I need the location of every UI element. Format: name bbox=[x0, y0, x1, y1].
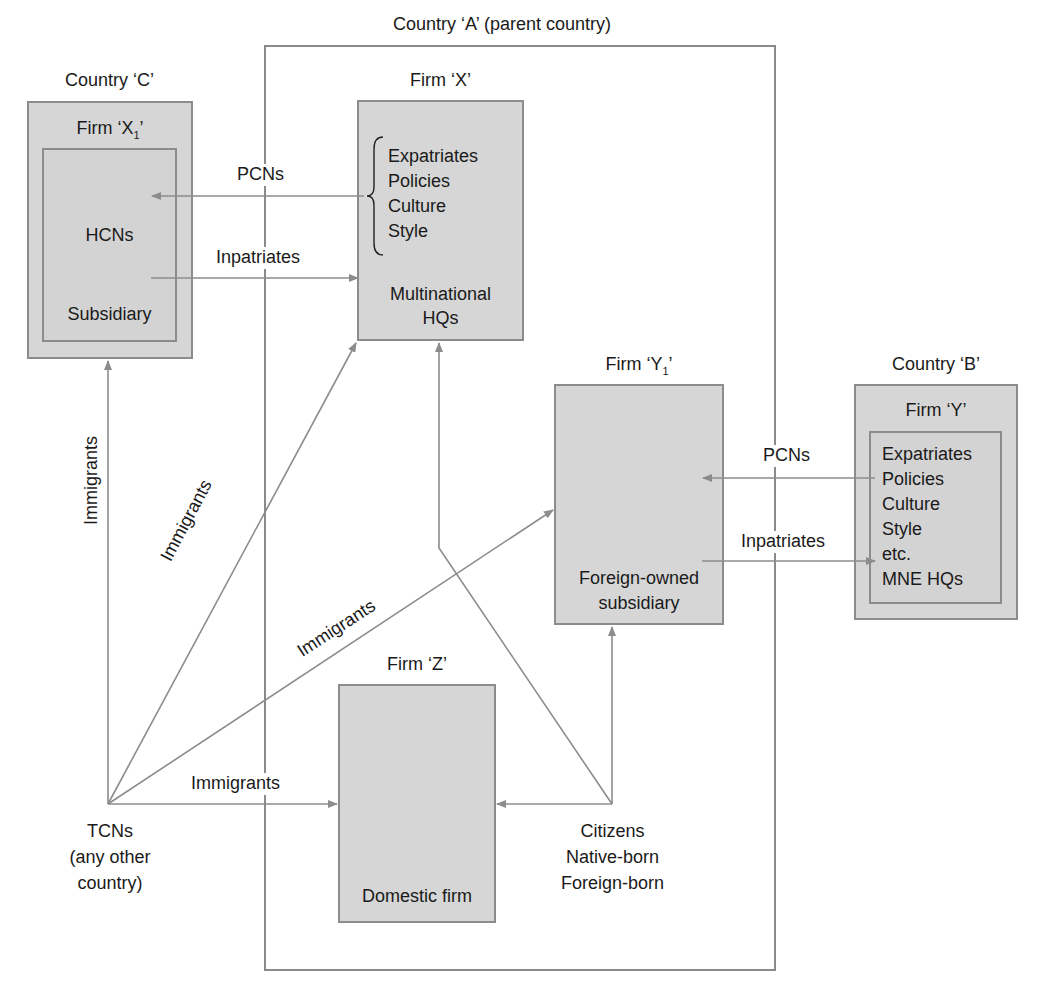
immigrants-tcn-to-x1-label: Immigrants bbox=[81, 434, 102, 527]
immigrants-tcn-to-z-label: Immigrants bbox=[188, 773, 283, 795]
pcns-x-to-x1-label: PCNs bbox=[234, 164, 287, 186]
citizens-label: Citizens Native-born Foreign-born bbox=[535, 818, 690, 896]
inpatriates-x1-to-x-label: Inpatriates bbox=[213, 247, 303, 269]
pcns-y-to-y1-label: PCNs bbox=[760, 445, 813, 467]
inpatriates-y1-to-y-label: Inpatriates bbox=[738, 531, 828, 553]
tcns-label: TCNs (any other country) bbox=[30, 818, 190, 896]
